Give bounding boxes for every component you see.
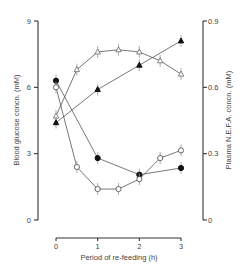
right-tick-label: 0.6 xyxy=(208,83,218,92)
data-point-open-triangle xyxy=(116,47,121,52)
series-layer xyxy=(53,35,183,195)
chart: 0369 00.30.60.9 0123 Blood glucose concn… xyxy=(0,0,245,279)
data-point-filled-circle xyxy=(95,155,100,160)
data-point-filled-triangle xyxy=(178,38,183,43)
series-line xyxy=(56,50,181,116)
series-filled-circle xyxy=(53,75,183,181)
series-open-triangle xyxy=(53,44,183,122)
data-point-filled-circle xyxy=(178,165,183,170)
data-point-open-triangle xyxy=(74,67,79,72)
right-y-ticks: 00.30.60.9 xyxy=(203,17,218,225)
data-point-open-circle xyxy=(158,155,163,160)
left-tick-label: 3 xyxy=(27,149,31,158)
left-tick-label: 9 xyxy=(27,17,31,26)
x-tick-label: 2 xyxy=(137,242,141,251)
data-point-open-circle xyxy=(53,85,58,90)
data-point-open-circle xyxy=(178,148,183,153)
data-point-open-circle xyxy=(137,176,142,181)
left-tick-label: 0 xyxy=(27,216,31,225)
y2-axis-label: Plasma N.E.F.A. concn. (mM) xyxy=(224,70,233,169)
data-point-open-triangle xyxy=(178,71,183,76)
right-tick-label: 0 xyxy=(208,216,212,225)
left-tick-label: 6 xyxy=(27,83,31,92)
left-y-ticks: 0369 xyxy=(27,17,38,225)
x-tick-label: 3 xyxy=(179,242,183,251)
series-line xyxy=(56,81,181,175)
data-point-open-circle xyxy=(74,164,79,169)
data-point-open-circle xyxy=(116,186,121,191)
y-axis-label: Blood glucose concn. (mM) xyxy=(12,74,21,165)
series-open-circle xyxy=(53,81,183,195)
x-tick-label: 1 xyxy=(96,242,100,251)
x-tick-label: 0 xyxy=(54,242,58,251)
data-point-filled-triangle xyxy=(95,87,100,92)
data-point-filled-triangle xyxy=(137,62,142,67)
data-point-open-circle xyxy=(95,186,100,191)
series-line xyxy=(56,87,181,189)
right-tick-label: 0.9 xyxy=(208,17,218,26)
x-ticks: 0123 xyxy=(54,238,183,251)
x-axis-label: Period of re-feeding (h) xyxy=(80,253,158,262)
data-point-filled-triangle xyxy=(53,120,58,125)
right-tick-label: 0.3 xyxy=(208,149,218,158)
